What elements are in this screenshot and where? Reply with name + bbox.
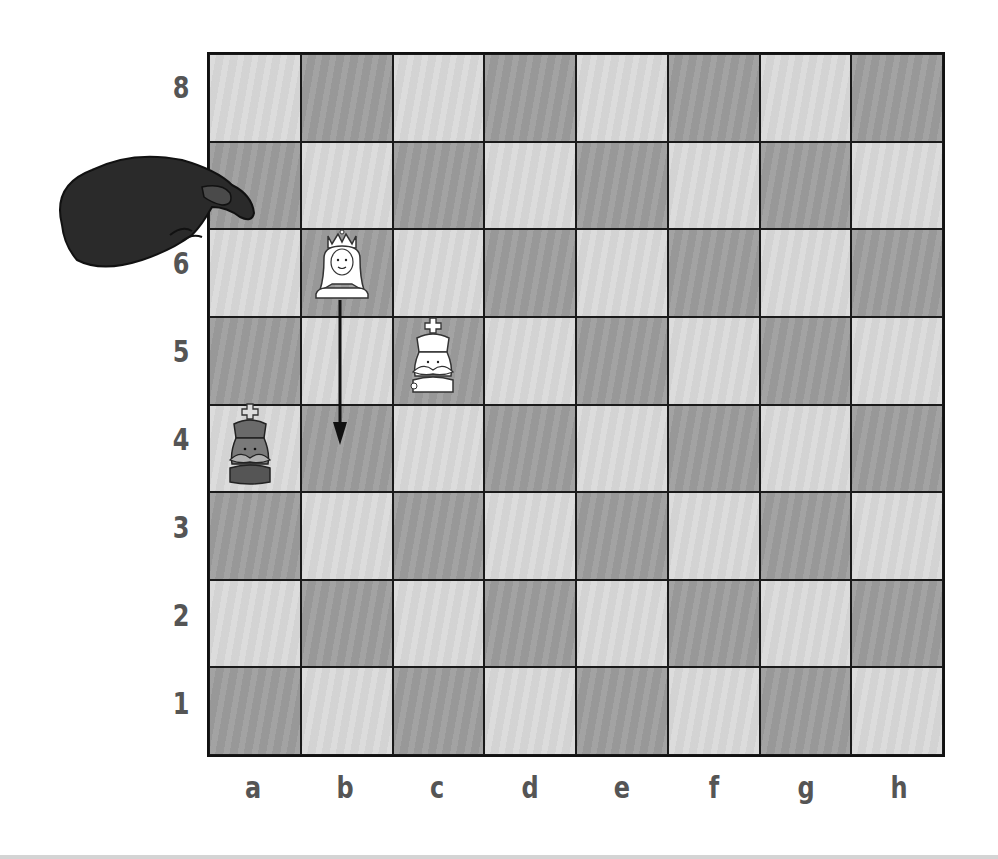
- square-g2[interactable]: [760, 580, 852, 668]
- file-label-c: c: [400, 770, 474, 805]
- square-g4[interactable]: [760, 405, 852, 493]
- square-g1[interactable]: [760, 667, 852, 755]
- square-f8[interactable]: [668, 54, 760, 142]
- white-queen-icon[interactable]: [312, 228, 372, 304]
- square-c2[interactable]: [393, 580, 485, 668]
- rank-label-2: 2: [169, 598, 193, 633]
- bottom-divider: [0, 855, 998, 859]
- square-e8[interactable]: [576, 54, 668, 142]
- square-d6[interactable]: [484, 229, 576, 317]
- square-d5[interactable]: [484, 317, 576, 405]
- square-e3[interactable]: [576, 492, 668, 580]
- square-g7[interactable]: [760, 142, 852, 230]
- square-g8[interactable]: [760, 54, 852, 142]
- square-b8[interactable]: [301, 54, 393, 142]
- square-f7[interactable]: [668, 142, 760, 230]
- square-e5[interactable]: [576, 317, 668, 405]
- square-e6[interactable]: [576, 229, 668, 317]
- square-c7[interactable]: [393, 142, 485, 230]
- rank-label-1: 1: [169, 686, 193, 721]
- square-a1[interactable]: [209, 667, 301, 755]
- black-king-icon[interactable]: [222, 402, 278, 488]
- square-b1[interactable]: [301, 667, 393, 755]
- square-g6[interactable]: [760, 229, 852, 317]
- square-g3[interactable]: [760, 492, 852, 580]
- file-label-b: b: [308, 770, 382, 805]
- square-h5[interactable]: [851, 317, 943, 405]
- square-h3[interactable]: [851, 492, 943, 580]
- square-a5[interactable]: [209, 317, 301, 405]
- file-label-d: d: [493, 770, 567, 805]
- square-f3[interactable]: [668, 492, 760, 580]
- square-d1[interactable]: [484, 667, 576, 755]
- square-h1[interactable]: [851, 667, 943, 755]
- file-label-e: e: [585, 770, 659, 805]
- square-f4[interactable]: [668, 405, 760, 493]
- square-d7[interactable]: [484, 142, 576, 230]
- rank-label-5: 5: [169, 334, 193, 369]
- square-a8[interactable]: [209, 54, 301, 142]
- square-h4[interactable]: [851, 405, 943, 493]
- pointing-hand-icon: [52, 145, 262, 275]
- square-d4[interactable]: [484, 405, 576, 493]
- white-king-icon[interactable]: [405, 316, 461, 398]
- file-label-h: h: [862, 770, 936, 805]
- file-label-a: a: [216, 770, 290, 805]
- file-label-g: g: [769, 770, 843, 805]
- square-b7[interactable]: [301, 142, 393, 230]
- square-b3[interactable]: [301, 492, 393, 580]
- square-g5[interactable]: [760, 317, 852, 405]
- move-arrow-icon: [330, 300, 350, 450]
- square-h6[interactable]: [851, 229, 943, 317]
- square-c8[interactable]: [393, 54, 485, 142]
- square-e4[interactable]: [576, 405, 668, 493]
- square-c3[interactable]: [393, 492, 485, 580]
- square-h8[interactable]: [851, 54, 943, 142]
- square-f2[interactable]: [668, 580, 760, 668]
- square-f6[interactable]: [668, 229, 760, 317]
- square-f5[interactable]: [668, 317, 760, 405]
- square-a2[interactable]: [209, 580, 301, 668]
- square-d3[interactable]: [484, 492, 576, 580]
- square-d8[interactable]: [484, 54, 576, 142]
- square-c6[interactable]: [393, 229, 485, 317]
- square-c1[interactable]: [393, 667, 485, 755]
- rank-label-3: 3: [169, 510, 193, 545]
- rank-label-4: 4: [169, 422, 193, 457]
- chess-board: [207, 52, 945, 757]
- square-h7[interactable]: [851, 142, 943, 230]
- rank-label-8: 8: [169, 70, 193, 105]
- square-d2[interactable]: [484, 580, 576, 668]
- square-h2[interactable]: [851, 580, 943, 668]
- square-f1[interactable]: [668, 667, 760, 755]
- square-e2[interactable]: [576, 580, 668, 668]
- square-c4[interactable]: [393, 405, 485, 493]
- square-e7[interactable]: [576, 142, 668, 230]
- file-label-f: f: [677, 770, 751, 805]
- square-e1[interactable]: [576, 667, 668, 755]
- square-b2[interactable]: [301, 580, 393, 668]
- square-a3[interactable]: [209, 492, 301, 580]
